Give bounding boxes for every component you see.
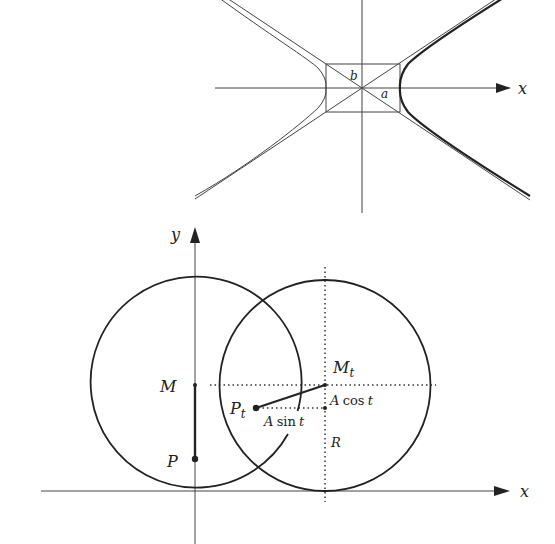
bottom-x-axis-arrow-icon (494, 486, 510, 496)
bottom-x-axis-label: x (520, 482, 529, 501)
segment-pt-mt (256, 385, 325, 408)
point-foot (323, 406, 327, 410)
top-x-axis-arrow-icon (496, 83, 511, 93)
hyperbola-figure: x b a (195, 0, 530, 213)
point-p-label: P (166, 452, 178, 471)
a-sin-t-label: A sin t (263, 414, 305, 429)
radius-r-label: R (330, 435, 341, 450)
asymptote-2 (195, 0, 508, 199)
point-pt-label: Pt (229, 399, 246, 421)
a-cos-t-label: A cos t (329, 393, 374, 408)
hyperbola-right-branch (400, 0, 530, 196)
semi-axis-b-label: b (350, 69, 358, 83)
point-m-label: M (159, 377, 177, 396)
point-pt (253, 405, 259, 411)
bottom-y-axis-arrow-icon (190, 227, 200, 243)
point-mt-label: Mt (332, 358, 354, 380)
point-mt (323, 383, 327, 387)
top-x-axis-label: x (518, 79, 527, 98)
semi-axis-a-label: a (381, 87, 388, 101)
circles-figure: y x M P Mt Pt A cos t A (41, 225, 529, 544)
figure-canvas: x b a y x (0, 0, 555, 544)
hyperbola-left-branch (195, 0, 326, 196)
point-m (193, 383, 197, 387)
point-p (192, 456, 198, 462)
bottom-y-axis-label: y (170, 225, 181, 244)
